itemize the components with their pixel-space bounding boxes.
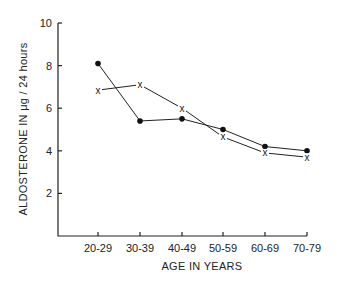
axis-lines	[58, 23, 307, 236]
dot-marker-icon	[95, 61, 101, 67]
y-tick-label: 8	[46, 60, 52, 72]
y-axis-title: ALDOSTERONE IN μg / 24 hours	[17, 42, 29, 215]
x-tick-label: 60-69	[251, 242, 279, 254]
x-tick-label: 20-29	[84, 242, 112, 254]
x-marker-icon: x	[263, 147, 268, 158]
x-marker-icon: x	[138, 79, 143, 90]
data-series: xxxxxx	[94, 61, 311, 163]
series-crosses: xxxxxx	[94, 79, 311, 162]
y-tick-label: 4	[46, 145, 52, 157]
x-marker-icon: x	[221, 131, 226, 142]
y-tick-label: 2	[46, 187, 52, 199]
series-dots	[95, 61, 310, 154]
series-line	[98, 63, 307, 150]
line-chart: 246810 20-2930-3940-4950-5960-6970-79 xx…	[0, 0, 337, 285]
x-axis-title: AGE IN YEARS	[161, 260, 242, 272]
x-tick-label: 70-79	[293, 242, 321, 254]
x-marker-icon: x	[305, 152, 310, 163]
x-tick-label: 50-59	[209, 242, 237, 254]
x-marker-icon: x	[96, 85, 101, 96]
axes	[58, 23, 307, 236]
x-marker-icon: x	[180, 103, 185, 114]
dot-marker-icon	[179, 116, 185, 122]
y-tick-label: 6	[46, 102, 52, 114]
x-tick-label: 40-49	[168, 242, 196, 254]
x-axis-ticks: 20-2930-3940-4950-5960-6970-79	[84, 232, 321, 254]
x-tick-label: 30-39	[126, 242, 154, 254]
y-tick-label: 10	[40, 17, 52, 29]
series-line	[98, 85, 307, 157]
y-axis-ticks: 246810	[40, 17, 62, 199]
dot-marker-icon	[137, 118, 143, 124]
